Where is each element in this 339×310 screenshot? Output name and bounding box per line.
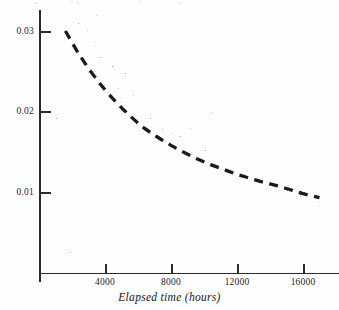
plot-area [0,0,339,310]
scan-speck [100,57,101,58]
scan-speck [288,190,289,191]
chart-figure: 0.03 0.02 0.01 4000 8000 12000 16000 Ela… [0,0,339,310]
scan-speck [211,112,212,113]
scan-speck [205,150,206,151]
scan-speck [118,88,119,89]
scan-speck [133,95,134,96]
scan-speck [112,66,113,67]
scan-speck [150,118,151,119]
scan-speck [87,30,88,31]
scan-speck [262,178,263,179]
scan-speck [180,136,181,137]
decay-curve [65,31,319,198]
scan-speck [190,128,191,129]
scan-speck [96,15,97,16]
scan-speck [56,118,57,119]
scan-speck [318,205,319,206]
